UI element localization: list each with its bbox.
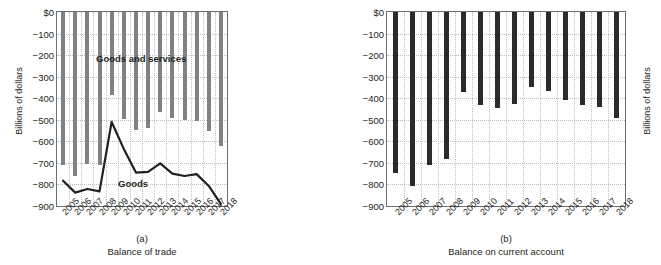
y-axis-tick-label: −300 <box>338 71 384 82</box>
bar <box>410 12 415 186</box>
y-axis-tick-label: −400 <box>338 93 384 104</box>
y-axis-tick-label: −800 <box>338 179 384 190</box>
y-axis-title-b: Billions of dollars <box>642 16 652 186</box>
gridline-vertical <box>540 12 541 206</box>
gridline-vertical <box>506 12 507 206</box>
y-axis-ticks-b: $0−100−200−300−400−500−600−700−800−900 <box>336 0 384 265</box>
y-axis-ticks-a: $0−100−200−300−400−500−600−700−800−900 <box>6 0 54 265</box>
gridline-vertical <box>421 12 422 206</box>
gridline-vertical <box>557 12 558 206</box>
bar <box>444 12 449 159</box>
y-axis-tick-label: −900 <box>8 201 54 212</box>
y-axis-tick-label: $0 <box>338 7 384 18</box>
panel-letter-a: (a) <box>56 233 228 244</box>
y-axis-tick-label: −500 <box>338 114 384 125</box>
y-axis-tick-label: −300 <box>8 71 54 82</box>
bar <box>546 12 551 91</box>
bar <box>529 12 534 87</box>
line-series-goods <box>57 12 227 206</box>
bar <box>393 12 398 173</box>
bar <box>597 12 602 107</box>
y-axis-tick-label: −700 <box>8 157 54 168</box>
gridline-vertical <box>608 12 609 206</box>
gridline-vertical <box>455 12 456 206</box>
y-axis-tick-label: −200 <box>338 50 384 61</box>
gridline-vertical <box>472 12 473 206</box>
bar <box>427 12 432 165</box>
gridline-vertical <box>438 12 439 206</box>
series-label-goods-and-services: Goods and services <box>96 53 186 64</box>
panel-caption-a: Balance of trade <box>26 246 258 257</box>
gridline-vertical <box>489 12 490 206</box>
gridline-vertical <box>404 12 405 206</box>
bar <box>461 12 466 92</box>
y-axis-tick-label: −100 <box>8 28 54 39</box>
panel-letter-b: (b) <box>386 233 626 244</box>
y-axis-tick-label: $0 <box>8 7 54 18</box>
bar <box>512 12 517 104</box>
y-axis-tick-label: −100 <box>338 28 384 39</box>
bar <box>478 12 483 105</box>
chart-panel-a: Billions of dollars $0−100−200−300−400−5… <box>0 0 330 265</box>
bar <box>614 12 619 118</box>
plot-area-b <box>386 11 626 207</box>
panel-caption-b: Balance on current account <box>356 246 656 257</box>
y-axis-tick-label: −200 <box>8 50 54 61</box>
y-axis-tick-label: −600 <box>8 136 54 147</box>
gridline-vertical <box>523 12 524 206</box>
gridline-vertical <box>574 12 575 206</box>
gridline-vertical <box>591 12 592 206</box>
y-axis-tick-label: −500 <box>8 114 54 125</box>
bar <box>563 12 568 100</box>
bar <box>580 12 585 105</box>
y-axis-tick-label: −800 <box>8 179 54 190</box>
series-label-goods: Goods <box>118 178 148 189</box>
y-axis-tick-label: −900 <box>338 201 384 212</box>
y-axis-tick-label: −700 <box>338 157 384 168</box>
y-axis-tick-label: −400 <box>8 93 54 104</box>
y-axis-tick-label: −600 <box>338 136 384 147</box>
chart-panel-b: Billions of dollars $0−100−200−300−400−5… <box>330 0 661 265</box>
bar <box>495 12 500 108</box>
